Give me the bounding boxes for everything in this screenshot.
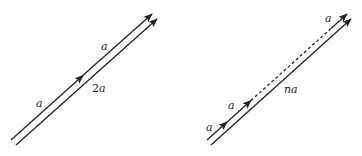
label-na-variable: a xyxy=(291,83,298,96)
left-diagram: a a 2a xyxy=(11,14,157,145)
label-2a-coefficient: 2 xyxy=(92,82,99,95)
label-a-1: a xyxy=(36,97,43,110)
vector-na xyxy=(211,19,351,145)
vector-2a xyxy=(16,19,157,145)
label-2a: 2a xyxy=(92,82,106,95)
right-diagram: a a a na xyxy=(206,12,351,145)
label-2a-variable: a xyxy=(99,82,106,95)
vector-a-1 xyxy=(11,76,83,141)
label-a-2: a xyxy=(228,99,235,112)
label-a-last: a xyxy=(325,12,332,25)
vector-a-last xyxy=(331,14,347,29)
vector-a-2 xyxy=(80,14,152,78)
label-a-2: a xyxy=(101,40,108,53)
label-na-coefficient: n xyxy=(284,83,291,96)
vector-diagram: a a 2a a a a na xyxy=(0,0,362,156)
label-a-1: a xyxy=(206,121,213,134)
label-na: na xyxy=(284,83,298,96)
